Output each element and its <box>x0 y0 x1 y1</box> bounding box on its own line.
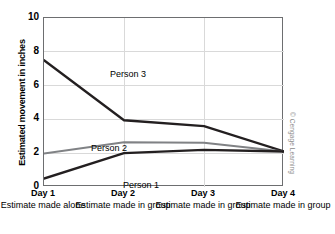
series-line-person-1 <box>44 150 284 179</box>
series-label-person-3: Person 3 <box>110 70 146 79</box>
x-category-day-4: Day 4 Estimate made in group <box>231 188 335 211</box>
y-tick-label-6: 6 <box>18 80 39 90</box>
y-tick-label-8: 8 <box>18 46 39 56</box>
y-tick-label-2: 2 <box>18 147 39 157</box>
series-label-person-2: Person 2 <box>91 144 127 153</box>
plot-canvas <box>44 18 284 187</box>
x-category-day-4-sublabel: Estimate made in group <box>231 200 335 211</box>
x-category-day-4-title: Day 4 <box>231 188 335 199</box>
y-tick-label-4: 4 <box>18 113 39 123</box>
y-tick-label-10: 10 <box>18 12 39 22</box>
x-axis-category-labels: Day 1 Estimate made alone Day 2 Estimate… <box>0 188 326 234</box>
copyright-credit: © Cengage Learning <box>289 112 296 202</box>
plot-area: Person 3 Person 2 Person 1 <box>43 17 283 186</box>
series-line-person-3 <box>44 60 284 151</box>
gridlines <box>44 18 284 187</box>
